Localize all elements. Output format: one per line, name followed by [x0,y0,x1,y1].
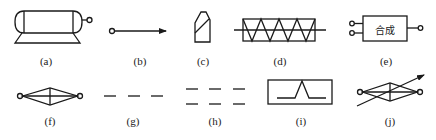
label-i: (i) [296,115,306,127]
synthesis-block-text: 合成 [375,21,395,36]
symbol-f-diamond-icon [18,88,83,105]
label-a: (a) [40,55,52,67]
symbol-b-arrow-icon [110,29,167,34]
symbol-c-pencil-icon [195,12,210,42]
symbol-diagram: 合成 (a) (b) (c) (d) (e) (f) (g) (h) (i) (… [0,0,436,140]
symbol-a-tank-icon [15,11,92,43]
symbol-d-zigzag-box-icon [234,19,326,41]
label-d: (d) [274,55,287,67]
label-b: (b) [134,55,147,67]
label-e: (e) [380,55,392,67]
symbol-i-peak-box-icon [268,80,332,104]
label-j: (j) [385,115,395,127]
label-f: (f) [45,115,56,127]
label-g: (g) [127,115,140,127]
label-h: (h) [209,115,222,127]
symbol-j-diamond-arrow-icon [357,75,424,106]
label-c: (c) [197,55,209,67]
symbol-h-double-dashed-line-icon [186,89,245,104]
